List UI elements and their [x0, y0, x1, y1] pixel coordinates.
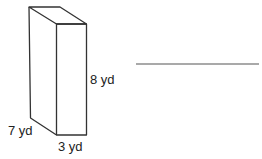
depth-label: 7 yd	[8, 123, 33, 138]
prism-side-face	[29, 7, 57, 135]
width-label: 3 yd	[58, 139, 83, 154]
prism-top-face	[29, 7, 87, 24]
prism-front-face	[57, 24, 87, 135]
prism-diagram: 8 yd 7 yd 3 yd	[0, 0, 262, 159]
height-label: 8 yd	[90, 72, 115, 87]
rectangular-prism	[29, 7, 87, 135]
